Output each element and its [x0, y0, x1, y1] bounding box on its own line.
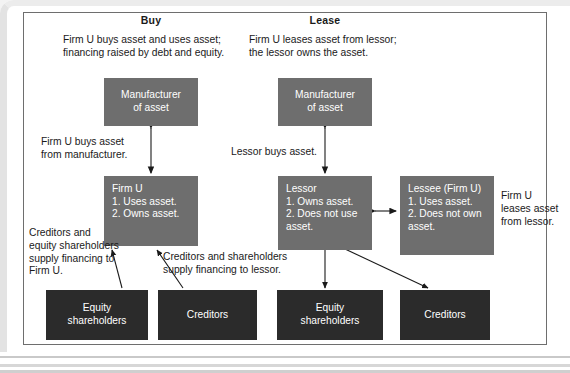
annotation-lessor-buys-asset: Lessor buys asset.	[231, 146, 351, 159]
page-bottom-rule-2	[0, 364, 570, 367]
annotation-firm-u-buys-asset: Firm U buys asset from manufacturer.	[41, 136, 161, 162]
column-title-buy: Buy	[104, 14, 198, 26]
box-lease-equity-shareholders: Equity shareholders	[277, 290, 383, 340]
box-buy-creditors: Creditors	[158, 290, 257, 340]
annotation-creditors-equity-finance-firm-u: Creditors and equity shareholders supply…	[29, 227, 139, 278]
figure-page: Buy Lease Firm U buys asset and uses ass…	[0, 0, 570, 373]
caption-buy: Firm U buys asset and uses asset; financ…	[63, 34, 263, 60]
page-bottom-rule-1	[0, 356, 570, 358]
box-buy-manufacturer: Manufacturer of asset	[104, 78, 198, 126]
box-buy-equity-shareholders: Equity shareholders	[46, 290, 148, 340]
box-lessee: Lessee (Firm U) 1. Uses asset. 2. Does n…	[400, 176, 494, 255]
annotation-creditors-shareholders-finance-lessor: Creditors and shareholders supply financ…	[163, 251, 323, 277]
box-lease-creditors: Creditors	[400, 290, 490, 340]
column-title-lease: Lease	[278, 14, 372, 26]
box-lease-manufacturer: Manufacturer of asset	[278, 78, 372, 126]
caption-lease: Firm U leases asset from lessor; the les…	[249, 34, 449, 60]
box-lessor: Lessor 1. Owns asset. 2. Does not use as…	[278, 176, 372, 250]
annotation-firm-u-leases-asset: Firm U leases asset from lessor.	[501, 190, 570, 228]
